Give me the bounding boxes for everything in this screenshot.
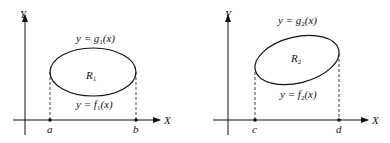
figure-1: Y X a b R1 y = g1(x) y = f1(x)	[13, 8, 172, 135]
upper-curve-label: y = g1(x)	[75, 32, 115, 46]
point-b	[134, 118, 138, 122]
region-label: R2	[290, 52, 302, 66]
label-a: a	[47, 123, 53, 135]
y-axis-label: Y	[225, 8, 233, 20]
region-diagram: Y X a b R1 y = g1(x) y = f1(x) Y X c d R…	[0, 0, 390, 143]
x-axis-label: X	[163, 114, 172, 126]
label-c: c	[252, 123, 257, 135]
upper-curve-label: y = g2(x)	[277, 14, 317, 28]
label-b: b	[133, 123, 139, 135]
region-boundary	[50, 48, 136, 96]
point-d	[337, 118, 341, 122]
lower-curve-label: y = f1(x)	[75, 98, 113, 112]
x-axis-label: X	[371, 114, 380, 126]
figure-2: Y X c d R2 y = g2(x) y = f2(x)	[213, 8, 380, 135]
point-a	[48, 118, 52, 122]
lower-curve-label: y = f2(x)	[279, 88, 317, 102]
y-axis-label: Y	[20, 8, 28, 20]
point-c	[253, 118, 257, 122]
region-label: R1	[85, 69, 97, 83]
label-d: d	[336, 123, 342, 135]
